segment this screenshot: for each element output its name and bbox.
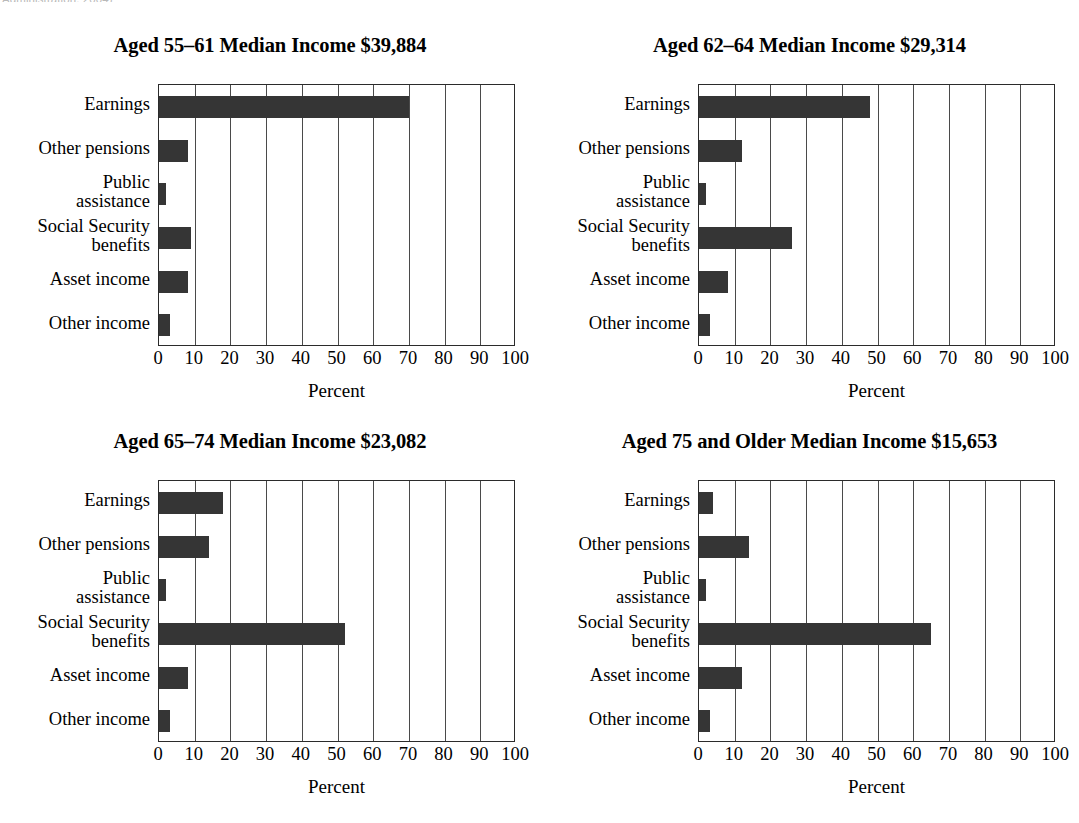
gridline (445, 481, 446, 741)
x-tick-label: 50 (867, 348, 886, 369)
x-tick-label: 40 (292, 744, 311, 765)
gridline (770, 85, 771, 345)
category-label: Social Security benefits (0, 217, 150, 255)
gridline (842, 481, 843, 741)
plot-area (698, 84, 1055, 346)
bar (699, 623, 931, 645)
x-tick-label: 80 (974, 348, 993, 369)
chart-panel: Aged 62–64 Median Income $29,314Earnings… (540, 26, 1079, 422)
x-axis-ticks: 0102030405060708090100 (158, 744, 515, 768)
x-tick-label: 80 (974, 744, 993, 765)
x-tick-label: 70 (399, 744, 418, 765)
category-label: Asset income (540, 270, 690, 289)
bar (159, 579, 166, 601)
bar (699, 314, 710, 336)
gridline (878, 85, 879, 345)
chart-panel: Aged 55–61 Median Income $39,884Earnings… (0, 26, 540, 422)
x-tick-label: 30 (256, 348, 275, 369)
x-tick-label: 90 (1010, 348, 1029, 369)
category-label: Asset income (0, 270, 150, 289)
x-tick-label: 0 (153, 348, 162, 369)
chart-title: Aged 65–74 Median Income $23,082 (0, 430, 540, 453)
gridline (409, 481, 410, 741)
gridline (338, 481, 339, 741)
x-tick-label: 60 (903, 744, 922, 765)
gridline (409, 85, 410, 345)
x-tick-label: 30 (796, 348, 815, 369)
x-axis-label: Percent (698, 776, 1055, 798)
category-label: Other income (0, 314, 150, 333)
category-axis: EarningsOther pensionsPublic assistanceS… (0, 480, 158, 742)
gridline (266, 481, 267, 741)
bar (159, 314, 170, 336)
bar (159, 623, 345, 645)
x-tick-label: 60 (903, 348, 922, 369)
category-label: Public assistance (540, 569, 690, 607)
gridline (338, 85, 339, 345)
chart-body: EarningsOther pensionsPublic assistanceS… (540, 84, 1079, 384)
x-tick-label: 20 (760, 348, 779, 369)
bar (159, 667, 188, 689)
category-axis: EarningsOther pensionsPublic assistanceS… (540, 480, 698, 742)
bar (699, 96, 870, 118)
category-label: Public assistance (0, 173, 150, 211)
x-tick-label: 20 (220, 744, 239, 765)
gridline (913, 85, 914, 345)
bar (159, 710, 170, 732)
x-tick-label: 90 (470, 744, 489, 765)
category-label: Public assistance (0, 569, 150, 607)
category-label: Other income (540, 314, 690, 333)
x-tick-label: 100 (501, 744, 529, 765)
chart-title: Aged 62–64 Median Income $29,314 (540, 34, 1079, 57)
x-tick-label: 20 (760, 744, 779, 765)
category-label: Asset income (0, 666, 150, 685)
x-axis-ticks: 0102030405060708090100 (698, 348, 1055, 372)
x-tick-label: 100 (501, 348, 529, 369)
bar (699, 140, 742, 162)
bar (699, 536, 749, 558)
gridline (302, 481, 303, 741)
x-tick-label: 60 (363, 744, 382, 765)
bar (699, 227, 792, 249)
category-axis: EarningsOther pensionsPublic assistanceS… (540, 84, 698, 346)
gridline (302, 85, 303, 345)
x-tick-label: 0 (693, 744, 702, 765)
category-label: Public assistance (540, 173, 690, 211)
gridline (949, 481, 950, 741)
bar (159, 536, 209, 558)
bar (699, 183, 706, 205)
bar (159, 227, 191, 249)
x-tick-label: 60 (363, 348, 382, 369)
gridline (806, 85, 807, 345)
x-tick-label: 50 (327, 348, 346, 369)
x-tick-label: 20 (220, 348, 239, 369)
x-axis-label: Percent (158, 776, 515, 798)
gridline (770, 481, 771, 741)
category-label: Earnings (540, 95, 690, 114)
gridline (445, 85, 446, 345)
gridline (878, 481, 879, 741)
gridline (373, 85, 374, 345)
category-label: Other pensions (0, 535, 150, 554)
x-axis-ticks: 0102030405060708090100 (158, 348, 515, 372)
category-label: Social Security benefits (540, 613, 690, 651)
x-axis-label: Percent (158, 380, 515, 402)
bar (159, 271, 188, 293)
gridline (842, 85, 843, 345)
caption-fragment: Administration, 2004) (2, 0, 113, 2)
x-axis-label: Percent (698, 380, 1055, 402)
category-label: Earnings (540, 491, 690, 510)
category-label: Other pensions (540, 535, 690, 554)
x-tick-label: 70 (939, 744, 958, 765)
gridline (735, 481, 736, 741)
gridline (985, 481, 986, 741)
bar (699, 492, 713, 514)
x-tick-label: 0 (153, 744, 162, 765)
category-label: Earnings (0, 491, 150, 510)
chart-panel: Aged 75 and Older Median Income $15,653E… (540, 422, 1079, 818)
chart-title: Aged 75 and Older Median Income $15,653 (540, 430, 1079, 453)
gridline (373, 481, 374, 741)
x-tick-label: 10 (724, 744, 743, 765)
x-tick-label: 70 (399, 348, 418, 369)
chart-body: EarningsOther pensionsPublic assistanceS… (540, 480, 1079, 780)
